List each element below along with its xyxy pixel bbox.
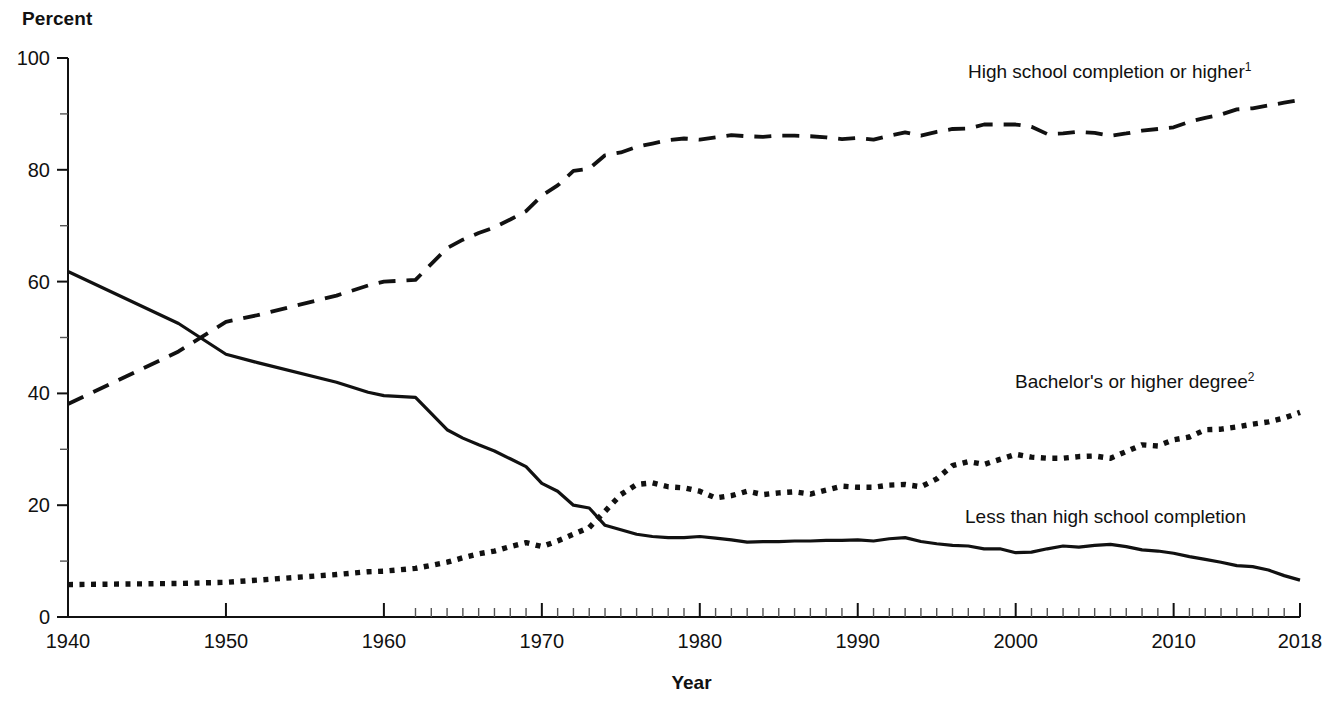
y-tick-label: 80: [28, 159, 50, 181]
series-label-text: Less than high school completion: [965, 506, 1246, 527]
x-tick-label: 2000: [993, 630, 1038, 652]
series-label-2: Less than high school completion: [965, 506, 1246, 527]
series-label-footnote: 2: [1248, 370, 1255, 384]
y-tick-label: 100: [17, 47, 50, 69]
axes-group: [57, 58, 1300, 617]
series-label-text: High school completion or higher: [968, 61, 1245, 82]
y-tick-label: 20: [28, 494, 50, 516]
x-tick-label: 1960: [362, 630, 407, 652]
x-tick-label: 1980: [678, 630, 723, 652]
series-label-footnote: 1: [1245, 60, 1252, 74]
x-tick-label: 2018: [1278, 630, 1323, 652]
y-tick-label: 0: [39, 606, 50, 628]
x-tick-label: 1970: [520, 630, 565, 652]
series-label-text: Bachelor's or higher degree: [1015, 371, 1248, 392]
series-label-1: Bachelor's or higher degree2: [1015, 370, 1255, 392]
x-tick-label: 1950: [204, 630, 249, 652]
chart-plot-area: 0204060801001940195019601970198019902000…: [0, 0, 1343, 708]
y-tick-label: 60: [28, 271, 50, 293]
x-axis-title-text: Year: [671, 672, 711, 693]
x-axis-title: Year: [0, 672, 1343, 694]
x-tick-label: 1990: [835, 630, 880, 652]
tick-labels-group: 0204060801001940195019601970198019902000…: [17, 47, 1323, 652]
series-label-0: High school completion or higher1: [968, 60, 1252, 82]
x-tick-label: 2010: [1151, 630, 1196, 652]
y-tick-label: 40: [28, 382, 50, 404]
series-line-dashed: [68, 100, 1300, 404]
chart-container: Percent 02040608010019401950196019701980…: [0, 0, 1343, 708]
x-tick-label: 1940: [46, 630, 91, 652]
series-line-dotted: [68, 412, 1300, 584]
